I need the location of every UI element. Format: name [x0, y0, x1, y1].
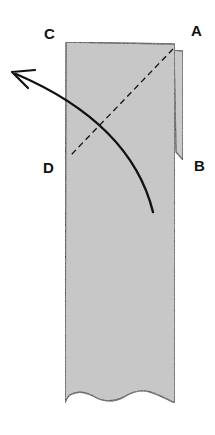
arrow-head-icon [12, 70, 35, 88]
label-a: A [191, 23, 202, 38]
fold-diagram [0, 0, 215, 435]
label-c: C [44, 26, 55, 41]
label-b: B [194, 158, 205, 173]
paper-strip [65, 42, 175, 403]
label-d: D [43, 160, 54, 175]
